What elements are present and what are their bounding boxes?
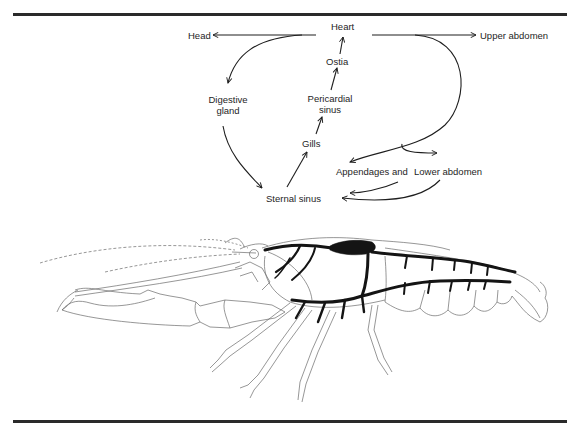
- crayfish-illustration: [0, 0, 580, 427]
- bottom-rule: [13, 420, 567, 423]
- blood-vessels: [265, 240, 515, 322]
